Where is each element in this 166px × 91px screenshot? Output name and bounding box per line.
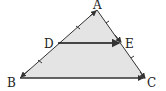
label-c: C	[147, 76, 156, 90]
label-e: E	[125, 37, 134, 51]
label-a: A	[92, 0, 102, 12]
triangle-diagram: A D E B C	[0, 0, 166, 91]
label-b: B	[7, 76, 16, 90]
label-d: D	[44, 37, 54, 51]
